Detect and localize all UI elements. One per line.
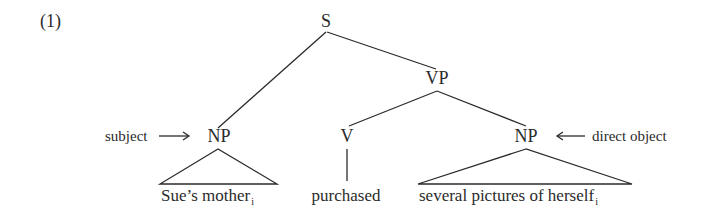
edge-vp-v (349, 91, 437, 126)
leaf-subject-text: Sue’s mother (161, 186, 251, 205)
left-arrow-icon (557, 132, 585, 140)
edge-s-vp (327, 32, 436, 69)
right-arrow-icon (159, 132, 189, 140)
syntax-tree: (1) S VP subject NP V NP direct object S… (0, 0, 710, 221)
leaf-object: several pictures of herselfi (419, 186, 598, 207)
triangle-object (418, 149, 632, 184)
leaf-object-index: i (595, 196, 598, 207)
leaf-object-text: several pictures of herself (419, 186, 594, 205)
node-np-subject: NP (207, 126, 230, 146)
leaf-verb: purchased (312, 186, 381, 205)
example-number: (1) (40, 11, 61, 32)
node-np-object: NP (514, 126, 537, 146)
object-annotation: direct object (592, 128, 667, 144)
node-vp: VP (425, 68, 448, 88)
node-v: V (341, 126, 354, 146)
edge-vp-np (437, 91, 526, 126)
leaf-subject: Sue’s motheri (161, 186, 254, 207)
leaf-subject-index: i (251, 196, 254, 207)
subject-annotation: subject (105, 128, 148, 144)
edge-s-np (218, 32, 326, 128)
triangle-subject (160, 149, 277, 184)
node-s: S (321, 11, 331, 31)
